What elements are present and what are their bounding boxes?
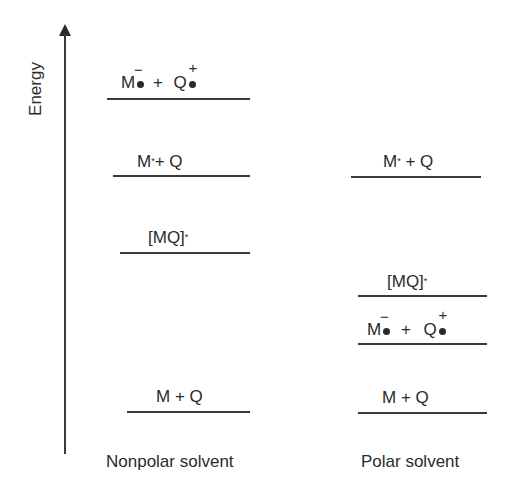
level-label-exciplex: [MQ]* — [387, 272, 427, 292]
level-line-exciplex — [120, 252, 250, 254]
level-line-radical-ion-pair — [358, 343, 487, 345]
level-label-excited: M* + Q — [383, 152, 433, 172]
plus-sign: + — [153, 73, 163, 92]
level-label-radical-ion-pair: M− + Q+ — [121, 73, 196, 93]
level-label-ground: M + Q — [382, 388, 429, 408]
level-label-exciplex: [MQ]* — [148, 228, 188, 248]
excited-star: * — [151, 156, 155, 166]
excited-star: * — [185, 232, 189, 242]
column-label-nonpolar: Nonpolar solvent — [106, 452, 234, 472]
species-text: [MQ] — [387, 272, 424, 291]
species-rest: + Q — [155, 152, 183, 171]
species-rest: + Q — [401, 152, 434, 171]
radical-dot-icon — [439, 328, 446, 335]
plus-charge: + — [189, 58, 198, 78]
level-line-exciplex — [358, 295, 487, 297]
minus-charge: − — [134, 60, 143, 80]
species-text: M — [383, 152, 397, 171]
plus-sign: + — [401, 320, 411, 339]
energy-axis-label: Energy — [25, 59, 47, 119]
level-label-excited: M*+ Q — [137, 152, 183, 172]
plus-charge: + — [439, 305, 448, 325]
radical-dot-icon — [189, 81, 196, 88]
species-text: M — [137, 152, 151, 171]
minus-charge: − — [380, 307, 389, 327]
axis-line — [64, 34, 66, 454]
level-line-ground — [127, 411, 250, 413]
level-label-radical-ion-pair: M− + Q+ — [367, 320, 446, 340]
species-q: Q — [174, 73, 187, 92]
level-line-excited — [113, 175, 250, 177]
level-line-excited — [351, 176, 481, 178]
level-line-ground — [358, 412, 487, 414]
radical-dot-icon — [137, 81, 144, 88]
species-q: Q — [424, 320, 437, 339]
excited-star: * — [424, 276, 428, 286]
excited-star: * — [397, 156, 401, 166]
radical-dot-icon — [383, 328, 390, 335]
species-text: [MQ] — [148, 228, 185, 247]
level-line-radical-ion-pair — [107, 98, 250, 100]
column-label-polar: Polar solvent — [361, 452, 459, 472]
level-label-ground: M + Q — [156, 387, 203, 407]
